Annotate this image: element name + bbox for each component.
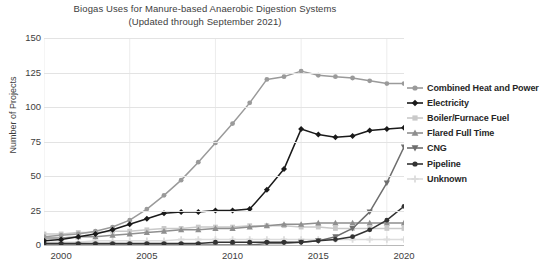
x-tick-2000: 2000 [51,250,72,261]
y-tick-75: 75 [11,136,41,147]
legend-item-combined-heat-and-power[interactable]: Combined Heat and Power [407,80,548,95]
legend-marker-icon [407,174,423,184]
legend-marker-icon [407,128,423,138]
x-tick-2015: 2015 [308,250,329,261]
chart-title-block: Biogas Uses for Manure-based Anaerobic D… [0,2,410,28]
legend-label: CNG [427,143,447,153]
y-tick-0: 0 [11,239,41,250]
y-tick-100: 100 [11,101,41,112]
legend-label: Combined Heat and Power [427,83,539,93]
y-axis: Number of Projects 150 125 100 75 50 25 … [0,0,41,276]
x-tick-2020: 2020 [393,250,414,261]
chart-title: Biogas Uses for Manure-based Anaerobic D… [0,2,410,15]
chart-legend: Combined Heat and PowerElectricityBoiler… [407,80,548,186]
legend-item-unknown[interactable]: Unknown [407,171,548,186]
y-tick-150: 150 [11,32,41,43]
legend-item-boiler-furnace-fuel[interactable]: Boiler/Furnace Fuel [407,110,548,125]
x-tick-2005: 2005 [136,250,157,261]
legend-label: Pipeline [427,159,461,169]
y-tick-50: 50 [11,170,41,181]
legend-item-electricity[interactable]: Electricity [407,95,548,110]
y-tick-125: 125 [11,67,41,78]
legend-item-cng[interactable]: CNG [407,141,548,156]
legend-label: Electricity [427,98,469,108]
legend-marker-icon [407,143,423,153]
x-axis: 2000 2005 2010 2015 2020 [44,38,404,276]
x-tick-2010: 2010 [222,250,243,261]
chart-container: Biogas Uses for Manure-based Anaerobic D… [0,0,548,276]
legend-marker-icon [407,83,423,93]
legend-marker-icon [407,113,423,123]
y-tick-25: 25 [11,205,41,216]
legend-label: Unknown [427,174,467,184]
legend-item-flared-full-time[interactable]: Flared Full Time [407,126,548,141]
legend-item-pipeline[interactable]: Pipeline [407,156,548,171]
legend-label: Flared Full Time [427,128,494,138]
legend-marker-icon [407,98,423,108]
chart-subtitle: (Updated through September 2021) [0,15,410,28]
legend-label: Boiler/Furnace Fuel [427,113,509,123]
legend-marker-icon [407,159,423,169]
